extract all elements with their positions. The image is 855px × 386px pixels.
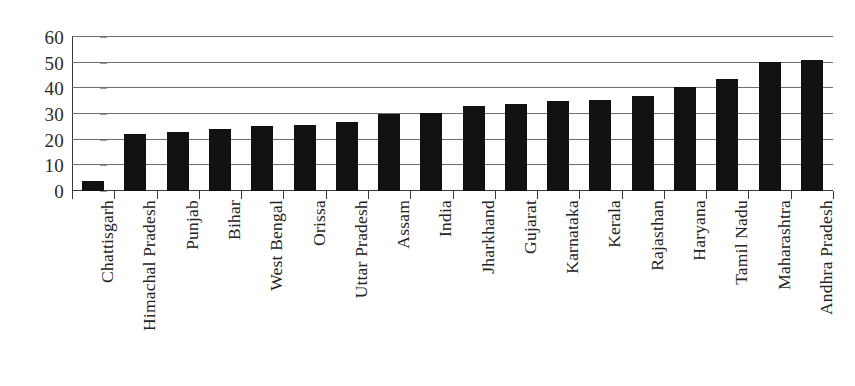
bar (589, 100, 611, 191)
x-tick-label: Maharashtra (776, 200, 794, 290)
bar (674, 87, 696, 191)
y-tick-label-40: 40 (38, 79, 64, 98)
x-tick-label: Uttar Pradesh (353, 200, 371, 298)
bar (632, 96, 654, 191)
x-tick-mark (579, 191, 580, 199)
x-tick-mark (706, 191, 707, 199)
bar (167, 132, 189, 191)
x-tick-label: Himachal Pradesh (141, 200, 159, 331)
x-tick-label: Assam (395, 200, 413, 249)
bar (378, 114, 400, 191)
chart-figure: 0102030405060 ChattisgarhHimachal Prades… (0, 0, 855, 386)
x-tick-label: West Bengal (268, 200, 286, 291)
x-tick-mark (157, 191, 158, 199)
x-tick-label: Tamil Nadu (733, 200, 751, 285)
x-tick-mark (664, 191, 665, 199)
bar (251, 126, 273, 191)
x-tick-mark (283, 191, 284, 199)
y-tick-label-10: 10 (38, 156, 64, 175)
x-tick-label: Chattisgarh (99, 200, 117, 283)
bar (547, 101, 569, 191)
y-axis-tick-labels: 0102030405060 (34, 37, 64, 191)
bar (124, 134, 146, 191)
y-tick-label-50: 50 (38, 53, 64, 72)
bar (420, 113, 442, 191)
x-tick-label: Andhra Pradesh (818, 200, 836, 315)
x-tick-label: Kerala (606, 200, 624, 248)
x-tick-mark (326, 191, 327, 199)
y-tick-label-0: 0 (38, 182, 64, 201)
plot-area (72, 37, 833, 191)
x-tick-label: Orissa (311, 200, 329, 246)
x-axis-tick-labels: ChattisgarhHimachal PradeshPunjabBiharWe… (72, 200, 833, 380)
bar (716, 79, 738, 191)
bar (336, 122, 358, 191)
bar (294, 125, 316, 191)
x-tick-mark (72, 191, 73, 199)
x-tick-mark (791, 191, 792, 199)
x-tick-label: Jharkhand (480, 200, 498, 274)
x-tick-mark (495, 191, 496, 199)
bar (505, 104, 527, 191)
x-tick-label: Bihar (226, 200, 244, 240)
gridline-50 (72, 62, 833, 63)
gridline-60 (72, 36, 833, 37)
x-tick-mark (453, 191, 454, 199)
x-tick-mark (622, 191, 623, 199)
x-tick-label: Punjab (184, 200, 202, 250)
x-tick-mark (199, 191, 200, 199)
x-axis-tick-marks (72, 191, 833, 199)
y-tick-label-20: 20 (38, 130, 64, 149)
x-tick-label: Haryana (691, 200, 709, 261)
x-tick-mark (410, 191, 411, 199)
x-tick-label: Gujarat (522, 200, 540, 254)
x-tick-mark (748, 191, 749, 199)
x-tick-mark (368, 191, 369, 199)
bar (82, 181, 104, 191)
x-tick-label: Karnataka (564, 200, 582, 274)
bar (209, 129, 231, 191)
x-tick-mark (241, 191, 242, 199)
y-tick-label-30: 30 (38, 105, 64, 124)
y-tick-label-60: 60 (38, 28, 64, 47)
bar (463, 106, 485, 191)
bar (801, 60, 823, 191)
x-tick-mark (537, 191, 538, 199)
x-tick-mark (833, 191, 834, 199)
x-tick-label: India (437, 200, 455, 237)
x-tick-mark (114, 191, 115, 199)
bar (759, 62, 781, 191)
x-tick-label: Rajasthan (649, 200, 667, 271)
